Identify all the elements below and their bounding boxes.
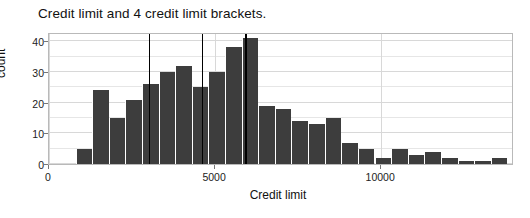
histogram-bar	[159, 72, 176, 164]
bracket-divider-2	[202, 34, 204, 164]
x-tick-mark	[214, 165, 215, 169]
y-axis-ticks: 010203040	[18, 33, 44, 165]
gridline-y-20	[49, 102, 512, 103]
x-tick-label: 0	[45, 171, 51, 183]
gridline-x-10000	[381, 34, 382, 164]
histogram-bar	[258, 106, 275, 164]
histogram-bar	[441, 158, 458, 164]
histogram-bar	[474, 161, 491, 164]
histogram-bar	[275, 109, 292, 164]
histogram-bar	[109, 118, 126, 164]
histogram-bar	[391, 149, 408, 164]
gridline-minor-y-35	[49, 56, 512, 57]
histogram-bar	[192, 87, 209, 164]
histogram-bar	[225, 47, 242, 164]
histogram-bar	[308, 124, 325, 164]
x-axis-label: Credit limit	[0, 188, 530, 202]
y-tick-label: 10	[22, 129, 44, 139]
x-tick-label: 10000	[366, 171, 395, 183]
x-axis-label-text: Credit limit	[250, 188, 307, 202]
histogram-bar	[408, 155, 425, 164]
histogram-bar	[175, 66, 192, 164]
chart-title: Credit limit and 4 credit limit brackets…	[38, 6, 266, 21]
gridline-minor-y-25	[49, 86, 512, 87]
gridline-y-30	[49, 71, 512, 72]
histogram-bar	[76, 149, 93, 164]
y-axis-label: count	[0, 49, 8, 78]
plot-area	[48, 33, 513, 165]
bracket-divider-3	[245, 34, 247, 164]
histogram-bar	[325, 118, 342, 164]
x-tick-mark	[380, 165, 381, 169]
histogram-bar	[375, 158, 392, 164]
histogram-bar	[358, 149, 375, 164]
histogram-bar	[458, 161, 475, 164]
y-tick-label: 20	[22, 99, 44, 109]
histogram-bar	[208, 72, 225, 164]
histogram-bar	[291, 121, 308, 164]
bracket-divider-1	[149, 34, 151, 164]
histogram-bar	[491, 158, 508, 164]
gridline-x-0	[49, 34, 50, 164]
histogram-figure: Credit limit and 4 credit limit brackets…	[0, 0, 530, 218]
histogram-bar	[92, 90, 109, 164]
y-tick-label: 30	[22, 68, 44, 78]
x-tick-mark	[48, 165, 49, 169]
histogram-bar	[142, 84, 159, 164]
gridline-y-40	[49, 40, 512, 41]
histogram-bar	[125, 100, 142, 164]
x-tick-label: 5000	[202, 171, 225, 183]
x-axis-ticks: 0500010000	[0, 165, 530, 185]
histogram-bar	[424, 152, 441, 164]
histogram-bar	[341, 143, 358, 164]
y-tick-label: 40	[22, 37, 44, 47]
